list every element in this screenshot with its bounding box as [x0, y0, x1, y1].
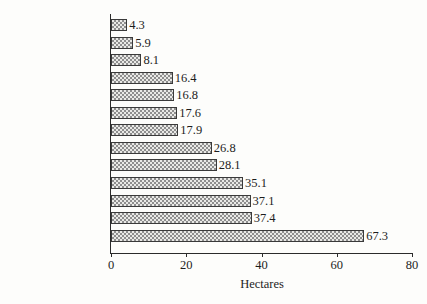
plot-area: Greece4.3Italy5.9Portugal8.1EU1216.4The …	[0, 0, 427, 304]
x-tick-label: 80	[392, 258, 427, 272]
bar	[111, 142, 212, 154]
bar	[111, 19, 127, 31]
bar	[111, 89, 174, 101]
bar	[111, 230, 364, 242]
x-tick-label: 40	[242, 258, 282, 272]
value-label: 35.1	[245, 177, 267, 189]
value-label: 67.3	[366, 230, 388, 242]
x-tick-label: 20	[166, 258, 206, 272]
bar	[111, 124, 178, 136]
x-axis-title: Hectares	[111, 277, 413, 291]
x-tick-label: 60	[317, 258, 357, 272]
bar	[111, 212, 252, 224]
x-tick-mark	[186, 253, 187, 257]
bar	[111, 159, 217, 171]
x-tick-label: 0	[91, 258, 131, 272]
value-label: 16.8	[176, 89, 198, 101]
x-tick-mark	[337, 253, 338, 257]
bar	[111, 195, 251, 207]
bar	[111, 54, 141, 66]
x-tick-mark	[412, 253, 413, 257]
value-label: 5.9	[135, 37, 151, 49]
value-label: 17.9	[180, 124, 202, 136]
x-tick-mark	[262, 253, 263, 257]
bar-chart: Greece4.3Italy5.9Portugal8.1EU1216.4The …	[0, 0, 427, 304]
value-label: 37.4	[254, 212, 276, 224]
bar	[111, 37, 133, 49]
value-label: 4.3	[129, 19, 145, 31]
value-label: 8.1	[143, 54, 159, 66]
bar	[111, 72, 173, 84]
value-label: 28.1	[219, 159, 241, 171]
value-label: 16.4	[175, 72, 197, 84]
value-label: 37.1	[253, 195, 275, 207]
value-label: 26.8	[214, 142, 236, 154]
x-tick-mark	[111, 253, 112, 257]
bar	[111, 107, 177, 119]
value-label: 17.6	[179, 107, 201, 119]
bar	[111, 177, 243, 189]
